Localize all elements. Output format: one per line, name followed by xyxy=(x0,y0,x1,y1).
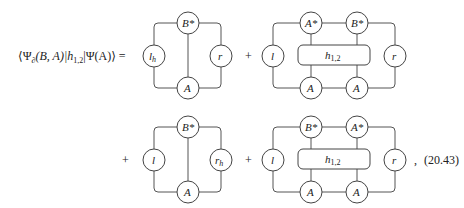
node-a: A xyxy=(300,77,322,99)
svg-text:A: A xyxy=(183,186,191,198)
svg-text:A: A xyxy=(306,186,314,198)
node-l-h: lh xyxy=(143,45,165,67)
svg-text:B*: B* xyxy=(182,121,195,133)
svg-text:A: A xyxy=(352,82,360,94)
svg-text:B*: B* xyxy=(351,17,364,29)
diagram-3: l B* A rh xyxy=(143,116,232,203)
svg-text:l: l xyxy=(152,154,155,166)
svg-text:B*: B* xyxy=(305,121,318,133)
diagram-1: lh B* A r xyxy=(143,12,232,99)
node-a: A xyxy=(346,181,368,203)
node-r-h: rh xyxy=(210,149,232,171)
node-b-star: B* xyxy=(177,116,199,138)
svg-text:r: r xyxy=(392,50,397,62)
svg-text:A: A xyxy=(306,82,314,94)
plus-sign: + xyxy=(245,153,252,167)
node-l: l xyxy=(262,149,284,171)
node-a: A xyxy=(346,77,368,99)
lhs-expression: ⟨Ψ∂(B, A)|h1,2|Ψ(A)⟩ = xyxy=(18,49,126,65)
svg-text:l: l xyxy=(271,50,274,62)
node-a: A xyxy=(177,181,199,203)
node-a: A xyxy=(300,181,322,203)
plus-sign: + xyxy=(245,49,252,63)
node-a-star: A* xyxy=(300,12,322,34)
operator-h12: h1,2 xyxy=(298,149,370,169)
svg-text:A: A xyxy=(183,82,191,94)
node-r: r xyxy=(384,149,406,171)
svg-text:A*: A* xyxy=(304,17,318,29)
svg-text:A: A xyxy=(352,186,360,198)
tensor-network-equation: ⟨Ψ∂(B, A)|h1,2|Ψ(A)⟩ = lh B* A r + xyxy=(0,0,464,208)
plus-sign: + xyxy=(122,153,129,167)
svg-text:B*: B* xyxy=(182,17,195,29)
comma: , xyxy=(414,153,417,167)
svg-text:r: r xyxy=(392,154,397,166)
diagram-2: h1,2 l A* B* A A r xyxy=(262,12,406,99)
node-b-star: B* xyxy=(346,12,368,34)
node-r: r xyxy=(210,45,232,67)
equation-number: (20.43) xyxy=(424,153,459,167)
node-a-star: A* xyxy=(346,116,368,138)
node-l: l xyxy=(262,45,284,67)
svg-text:l: l xyxy=(271,154,274,166)
node-r: r xyxy=(384,45,406,67)
node-b-star: B* xyxy=(300,116,322,138)
svg-text:r: r xyxy=(218,50,223,62)
node-b-star: B* xyxy=(177,12,199,34)
diagram-4: h1,2 l B* A* A A r xyxy=(262,116,406,203)
operator-h12: h1,2 xyxy=(298,45,370,65)
node-a: A xyxy=(177,77,199,99)
node-l: l xyxy=(143,149,165,171)
svg-text:A*: A* xyxy=(350,121,364,133)
